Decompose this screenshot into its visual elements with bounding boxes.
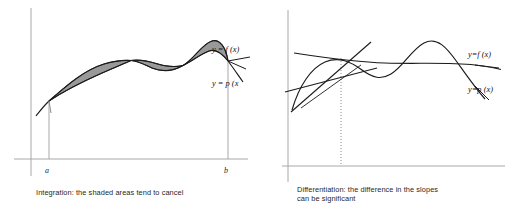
integration-plot	[0, 0, 262, 212]
curve-label-p-right: y=p (x)	[468, 85, 493, 94]
figure-root: a b y = f (x) y = p (x Integration: the …	[0, 0, 523, 212]
differentiation-plot	[261, 0, 523, 212]
x-tick-label-a: a	[45, 166, 49, 175]
tangent-line-p	[291, 42, 371, 112]
leader-f-label	[228, 57, 250, 61]
panel-caption-differentiation: Differentiation: the difference in the s…	[297, 185, 517, 203]
curve-p	[292, 41, 485, 110]
x-tick-label-b: b	[224, 166, 228, 175]
shaded-area-group	[49, 41, 228, 101]
curve-label-f-right: y=f (x)	[468, 50, 491, 59]
panel-integration: a b y = f (x) y = p (x Integration: the …	[0, 0, 262, 212]
tangent-line-secondary	[301, 65, 361, 108]
panel-differentiation: y=f (x) y=p (x) Differentiation: the dif…	[261, 0, 523, 212]
curve-label-p-left: y = p (x	[212, 79, 238, 88]
leader-f-label	[475, 65, 499, 68]
tangent-line-f	[285, 68, 377, 92]
curve-label-f-left: y = f (x)	[212, 45, 239, 54]
panel-caption-integration: Integration: the shaded areas tend to ca…	[36, 188, 251, 197]
shaded-lobe-1	[49, 60, 131, 101]
